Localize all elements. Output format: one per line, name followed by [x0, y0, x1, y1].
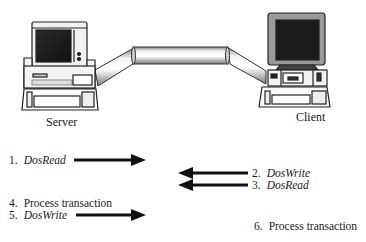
server-computer-icon — [22, 22, 98, 110]
arrow-step-1-right — [74, 154, 146, 166]
step-number: 1. — [9, 154, 18, 166]
step-text: DosRead — [267, 179, 309, 191]
arrow-step-5-right — [76, 209, 146, 221]
step-text: DosWrite — [24, 209, 67, 221]
step-number: 2. — [252, 167, 261, 179]
step-text: Process transaction — [24, 197, 112, 209]
step-number: 5. — [9, 209, 18, 221]
step-6: 6.Process transaction — [254, 220, 357, 232]
arrows — [74, 154, 248, 221]
step-text: DosWrite — [267, 167, 310, 179]
arrow-step-3-left — [178, 179, 248, 191]
step-1: 1.DosRead — [9, 154, 66, 166]
step-number: 4. — [9, 197, 18, 209]
arrow-step-2-left — [178, 167, 248, 179]
pipe-connection — [95, 47, 266, 86]
step-2: 2.DosWrite — [252, 167, 310, 179]
step-text: Process transaction — [269, 220, 357, 232]
client-label: Client — [296, 111, 325, 123]
client-computer-icon — [259, 13, 330, 107]
step-4: 4.Process transaction — [9, 197, 112, 209]
step-text: DosRead — [24, 154, 66, 166]
step-number: 6. — [254, 220, 263, 232]
step-number: 3. — [252, 179, 261, 191]
step-5: 5.DosWrite — [9, 209, 67, 221]
step-3: 3.DosRead — [252, 179, 309, 191]
server-label: Server — [46, 116, 77, 128]
